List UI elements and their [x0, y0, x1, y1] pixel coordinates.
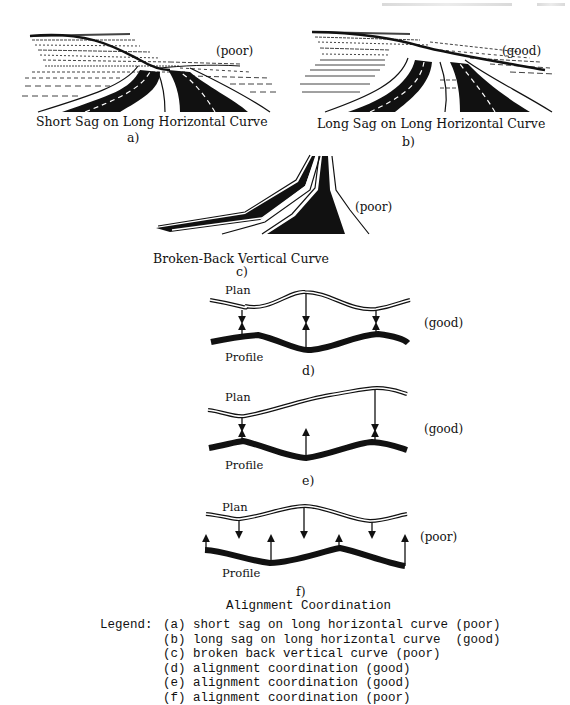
- figure-f-plan-label: Plan: [222, 500, 248, 514]
- figure-f-letter: f): [296, 584, 306, 599]
- legend-text: short sag on long horizontal curve (poor…: [193, 618, 501, 633]
- legend-text: alignment coordination (poor): [193, 691, 411, 705]
- figure-f-profile-label: Profile: [222, 566, 260, 580]
- legend-key: (c): [163, 647, 186, 662]
- legend-item-b: (b) long sag on long horizontal curve (g…: [163, 633, 501, 648]
- legend-list: (a) short sag on long horizontal curve (…: [163, 618, 501, 705]
- legend-text: alignment coordination (good): [193, 676, 411, 691]
- figure-f-rating: (poor): [420, 530, 457, 544]
- legend-item-e: (e) alignment coordination (good): [163, 676, 501, 691]
- legend-key: (a): [163, 618, 186, 633]
- legend-key: (d): [163, 662, 186, 677]
- legend-item-a: (a) short sag on long horizontal curve (…: [163, 618, 501, 633]
- legend-text: long sag on long horizontal curve (good): [193, 633, 501, 648]
- figure-title: Alignment Coordination: [226, 599, 391, 613]
- legend-key: (b): [163, 633, 186, 648]
- legend-key: (e): [163, 676, 186, 691]
- legend-title: Legend:: [100, 618, 153, 632]
- legend-text: alignment coordination (good): [193, 662, 411, 677]
- legend-item-d: (d) alignment coordination (good): [163, 662, 501, 677]
- legend-item-f: (f) alignment coordination (poor): [163, 691, 501, 705]
- legend-text: broken back vertical curve (poor): [193, 647, 441, 662]
- legend-item-c: (c) broken back vertical curve (poor): [163, 647, 501, 662]
- legend-key: (f): [163, 691, 186, 705]
